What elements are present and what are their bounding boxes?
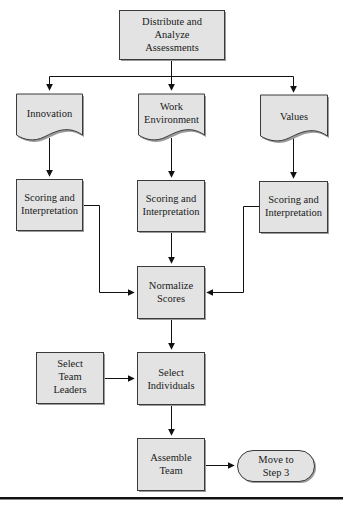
node-innovation-document: Innovation bbox=[17, 94, 85, 142]
edge-scoring-left-normalize bbox=[82, 206, 134, 293]
node-assemble-team: AssembleTeam bbox=[138, 439, 207, 493]
edge-scoring-right-normalize bbox=[207, 207, 259, 293]
bottom-rule bbox=[0, 497, 343, 500]
svg-text:Values: Values bbox=[280, 111, 308, 122]
node-work-environment-document: WorkEnvironment bbox=[139, 94, 207, 142]
node-distribute-assessments: Distribute andAnalyzeAssessments bbox=[120, 11, 227, 62]
node-scoring-right: Scoring andInterpretation bbox=[260, 182, 330, 235]
node-move-to-step-3: Move toStep 3 bbox=[238, 451, 317, 484]
node-values-document: Values bbox=[261, 95, 330, 143]
svg-text:Innovation: Innovation bbox=[27, 108, 73, 119]
node-scoring-left: Scoring andInterpretation bbox=[17, 180, 85, 233]
node-select-individuals: SelectIndividuals bbox=[138, 353, 207, 407]
node-select-team-leaders: SelectTeamLeaders bbox=[37, 353, 106, 406]
node-normalize-scores: NormalizeScores bbox=[138, 267, 207, 321]
flowchart-canvas: Distribute andAnalyzeAssessments Innovat… bbox=[0, 0, 343, 508]
node-scoring-mid: Scoring andInterpretation bbox=[138, 181, 207, 234]
